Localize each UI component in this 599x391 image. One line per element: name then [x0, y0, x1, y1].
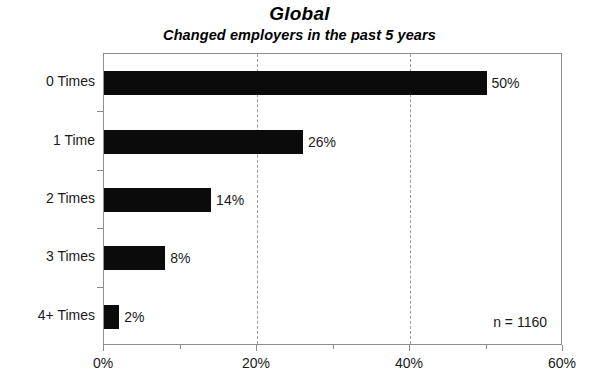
bar[interactable] — [104, 130, 303, 154]
x-axis-tick — [486, 345, 487, 349]
bar-value-label: 50% — [487, 75, 520, 91]
bar-value-label: 14% — [211, 192, 244, 208]
category-label: 4+ Times — [3, 307, 95, 323]
chart-subtitle: Changed employers in the past 5 years — [0, 27, 599, 43]
x-axis-label: 60% — [527, 355, 597, 371]
bar-row: 14% — [104, 188, 561, 212]
bar[interactable] — [104, 246, 165, 270]
x-axis-label: 20% — [221, 355, 291, 371]
bar-value-label: 26% — [303, 134, 336, 150]
bar-row: 50% — [104, 71, 561, 95]
bar-chart: Global Changed employers in the past 5 y… — [0, 0, 599, 391]
category-label: 0 Times — [3, 73, 95, 89]
chart-title: Global — [0, 3, 599, 25]
y-axis-tick — [97, 170, 103, 171]
bar-value-label: 2% — [119, 309, 144, 325]
bar[interactable] — [104, 71, 487, 95]
x-axis-tick — [562, 345, 563, 351]
category-label: 2 Times — [3, 190, 95, 206]
bar[interactable] — [104, 188, 211, 212]
sample-size-annotation: n = 1160 — [493, 314, 547, 330]
plot-area: 50%26%14%8%2% n = 1160 — [103, 53, 562, 345]
x-axis-tick — [180, 345, 181, 349]
bar[interactable] — [104, 305, 119, 329]
x-axis-tick — [103, 345, 104, 351]
category-label: 1 Time — [3, 132, 95, 148]
x-axis-label: 0% — [68, 355, 138, 371]
y-axis-tick — [97, 287, 103, 288]
bar-row: 8% — [104, 246, 561, 270]
bars-layer: 50%26%14%8%2% — [104, 54, 561, 344]
x-axis-tick — [409, 345, 410, 351]
y-axis-tick — [97, 228, 103, 229]
bar-row: 26% — [104, 130, 561, 154]
category-label: 3 Times — [3, 248, 95, 264]
x-axis-label: 40% — [374, 355, 444, 371]
bar-value-label: 8% — [165, 250, 190, 266]
x-axis-tick — [333, 345, 334, 349]
x-axis-tick — [256, 345, 257, 351]
y-axis-tick — [97, 111, 103, 112]
